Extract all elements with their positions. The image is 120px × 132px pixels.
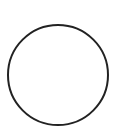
circle-outline bbox=[8, 25, 108, 125]
diagram-canvas bbox=[0, 0, 120, 132]
